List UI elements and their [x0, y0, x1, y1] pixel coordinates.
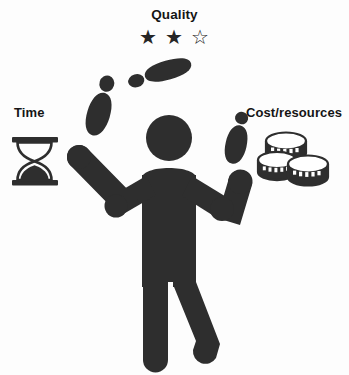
bowling-pin-top [125, 54, 193, 90]
label-time: Time [14, 105, 45, 120]
figure-head [146, 115, 192, 161]
juggler-illustration [0, 0, 349, 375]
figure-left-leg [143, 282, 168, 373]
figure-right-hand [228, 170, 252, 194]
quality-star-rating: ★ ★ ☆ [0, 27, 349, 47]
illustration-canvas: Quality ★ ★ ☆ Time Cost/resources [0, 0, 349, 375]
bowling-pin-left [81, 73, 121, 139]
coin-stack-right [288, 156, 328, 186]
star-filled-icon: ★ [165, 27, 184, 47]
coin-stacks-icon [258, 133, 328, 186]
figure-right-leg [172, 282, 220, 364]
label-quality: Quality [0, 7, 349, 22]
star-filled-icon: ★ [139, 27, 158, 47]
juggler-figure-icon [67, 115, 253, 373]
label-cost-resources: Cost/resources [246, 105, 342, 120]
star-empty-icon: ☆ [191, 27, 210, 47]
hourglass-icon [12, 137, 58, 186]
